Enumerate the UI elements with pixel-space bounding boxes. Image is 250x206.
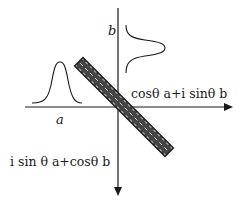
wavepacket-b — [126, 25, 165, 73]
beam-splitter-diagram: b a cosθ a+i sinθ b i sin θ a+cosθ b — [0, 0, 250, 206]
label-input-a: a — [56, 112, 64, 127]
wavepacket-a — [32, 62, 82, 103]
label-output-vertical: i sin θ a+cosθ b — [10, 154, 110, 169]
label-output-horizontal: cosθ a+i sinθ b — [131, 86, 227, 101]
right-arrow-icon — [224, 103, 233, 111]
label-input-b: b — [108, 23, 116, 38]
down-arrow-icon — [114, 187, 122, 196]
